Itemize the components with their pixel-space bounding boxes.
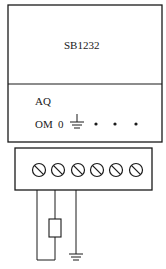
screw-icon — [91, 164, 104, 177]
section-label: AQ — [35, 95, 51, 107]
screw-icon — [130, 164, 143, 177]
ground-icon — [70, 114, 84, 128]
screw-icon — [52, 164, 65, 177]
screw-icon — [72, 164, 85, 177]
terminal-dot-3 — [134, 122, 137, 125]
resistor-icon — [49, 219, 61, 237]
module-box — [8, 5, 162, 142]
screw-icon — [33, 164, 46, 177]
terminal-screws — [33, 164, 143, 177]
terminal-dot-1 — [94, 122, 97, 125]
terminal-label-0: 0 — [58, 118, 64, 130]
screw-icon — [110, 164, 123, 177]
module-name: SB1232 — [64, 39, 99, 51]
terminal-label-om: OM — [35, 118, 53, 130]
terminal-dot-2 — [113, 122, 116, 125]
wiring-diagram: SB1232 AQ OM 0 — [0, 0, 166, 269]
terminal-block — [15, 148, 152, 190]
ground-icon — [69, 254, 83, 260]
